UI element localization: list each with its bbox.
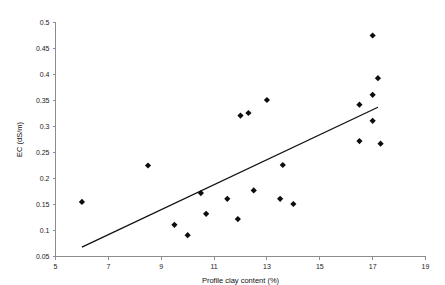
- y-tick-label: 0.15: [36, 201, 50, 208]
- data-point: [198, 190, 204, 196]
- regression-trend-line: [82, 107, 378, 247]
- x-tick-label: 5: [54, 263, 58, 270]
- data-point: [375, 75, 381, 81]
- data-point: [245, 110, 251, 116]
- data-point: [237, 112, 243, 118]
- y-axis-ticks: 0.050.10.150.20.250.30.350.40.450.5: [36, 19, 56, 260]
- data-point: [370, 118, 376, 124]
- y-tick-label: 0.3: [40, 123, 50, 130]
- data-point: [370, 92, 376, 98]
- y-tick-label: 0.5: [40, 19, 50, 26]
- data-point: [251, 187, 257, 193]
- y-tick-label: 0.1: [40, 227, 50, 234]
- data-point: [171, 222, 177, 228]
- x-tick-label: 17: [369, 263, 377, 270]
- y-tick-label: 0.05: [36, 253, 50, 260]
- data-point: [185, 232, 191, 238]
- trend-line-group: [82, 107, 378, 247]
- y-axis-title: EC (dS/m): [15, 122, 24, 158]
- x-tick-label: 11: [210, 263, 217, 270]
- data-point: [264, 97, 270, 103]
- axes-group: [56, 23, 426, 257]
- x-tick-label: 7: [106, 263, 110, 270]
- x-tick-label: 9: [159, 263, 163, 270]
- data-point: [356, 138, 362, 144]
- y-tick-label: 0.35: [36, 97, 50, 104]
- chart-figure: 0.050.10.150.20.250.30.350.40.450.5 5791…: [0, 0, 445, 285]
- x-tick-label: 13: [263, 263, 271, 270]
- y-tick-label: 0.45: [36, 45, 50, 52]
- x-axis-title: Profile clay content (%): [202, 276, 280, 285]
- x-axis-ticks: 5791113151719: [54, 257, 430, 270]
- data-point: [79, 199, 85, 205]
- data-point-group: [79, 32, 384, 238]
- data-point: [235, 216, 241, 222]
- data-point: [356, 102, 362, 108]
- data-point: [377, 141, 383, 147]
- data-point: [290, 201, 296, 207]
- scatter-plot: 0.050.10.150.20.250.30.350.40.450.5 5791…: [0, 0, 445, 285]
- data-point: [280, 162, 286, 168]
- x-tick-label: 19: [422, 263, 430, 270]
- data-point: [277, 196, 283, 202]
- y-tick-label: 0.4: [40, 71, 50, 78]
- data-point: [370, 32, 376, 38]
- data-point: [145, 162, 151, 168]
- data-point: [203, 211, 209, 217]
- y-tick-label: 0.2: [40, 175, 50, 182]
- x-tick-label: 15: [316, 263, 324, 270]
- data-point: [224, 196, 230, 202]
- y-tick-label: 0.25: [36, 149, 50, 156]
